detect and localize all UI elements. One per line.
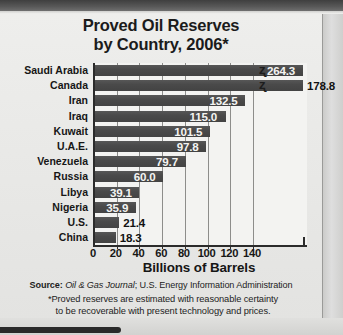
bar-value-label: 132.5: [209, 94, 237, 107]
x-axis-title: Billions of Barrels: [93, 260, 305, 275]
bar: [95, 80, 303, 91]
category-label: U.S.: [6, 215, 88, 230]
category-label: Kuwait: [6, 124, 88, 139]
bar-value-label: 35.9: [106, 201, 128, 214]
bar-value-label: 79.7: [156, 155, 178, 168]
category-label: Nigeria: [6, 200, 88, 215]
bar-row: Iraq115.0: [0, 109, 343, 124]
source-rest: ; U.S. Energy Information Administration: [135, 280, 293, 290]
chart-title-line1: Proved Oil Reserves: [0, 16, 322, 35]
chart-page: Proved Oil Reserves by Country, 2006* Sa…: [0, 0, 343, 335]
bar-row: Canada178.8ʐ: [0, 78, 343, 93]
category-label: China: [6, 230, 88, 245]
bar-value-label: 21.4: [123, 216, 145, 229]
category-label: U.A.E.: [6, 139, 88, 154]
source-label: Source:: [30, 280, 63, 290]
bar: [95, 232, 116, 243]
x-tick-label: 140: [239, 247, 265, 259]
source-italic: Oil & Gas Journal: [65, 280, 135, 290]
bar-value-label: 39.1: [110, 186, 132, 199]
source-line: Source: Oil & Gas Journal; U.S. Energy I…: [0, 280, 322, 290]
bar-row: U.A.E.97.8: [0, 139, 343, 154]
bar-row: Libya39.1: [0, 185, 343, 200]
bar-row: Saudi Arabia264.3ʐ: [0, 63, 343, 78]
bar-row: Venezuela79.7: [0, 154, 343, 169]
bar-value-label: 264.3: [267, 64, 295, 77]
bar-row: Nigeria35.9: [0, 200, 343, 215]
footnote-line-2: to be recoverable with present technolog…: [0, 306, 326, 318]
bar-value-label: 60.0: [134, 170, 156, 183]
category-label: Libya: [6, 185, 88, 200]
footnote-line-1: *Proved reserves are estimated with reas…: [0, 294, 326, 306]
chart-title: Proved Oil Reserves by Country, 2006*: [0, 16, 322, 53]
bar-row: Iran132.5: [0, 93, 343, 108]
page-bottom-bar: [0, 327, 121, 333]
bar-value-label: 97.8: [177, 140, 199, 153]
chart-title-line2: by Country, 2006*: [0, 35, 322, 54]
bar: [95, 217, 119, 228]
axis-break-icon: ʐ: [259, 79, 266, 91]
category-label: Saudi Arabia: [6, 63, 88, 78]
page-top-band: [0, 0, 343, 11]
bar-value-label: 178.8: [307, 79, 335, 92]
category-label: Canada: [6, 78, 88, 93]
category-label: Russia: [6, 169, 88, 184]
category-label: Venezuela: [6, 154, 88, 169]
bar-value-label: 18.3: [120, 231, 142, 244]
bar-value-label: 101.5: [174, 125, 202, 138]
footnote: *Proved reserves are estimated with reas…: [0, 294, 326, 317]
bar-row: Russia60.0: [0, 169, 343, 184]
bar-row: U.S.21.4: [0, 215, 343, 230]
category-label: Iran: [6, 93, 88, 108]
bar-row: China18.3: [0, 230, 343, 245]
axis-break-icon: ʐ: [259, 64, 266, 76]
bar-row: Kuwait101.5: [0, 124, 343, 139]
category-label: Iraq: [6, 109, 88, 124]
bar-value-label: 115.0: [190, 110, 217, 123]
